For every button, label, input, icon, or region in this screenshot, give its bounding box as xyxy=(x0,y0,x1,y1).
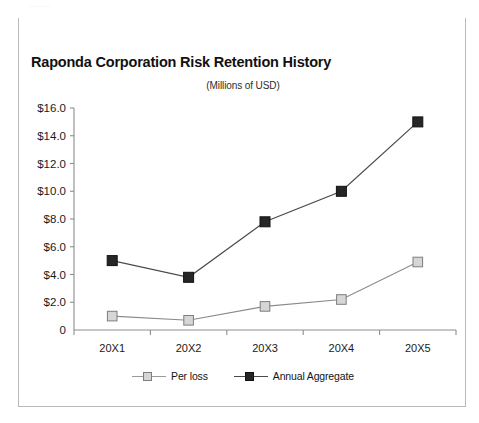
plot-area: 0$2.0$4.0$6.0$8.0$10.0$12.0$14.0$16.020X… xyxy=(19,18,467,407)
data-point-marker xyxy=(184,272,194,282)
open-square-marker-icon xyxy=(132,370,166,382)
y-axis-tick-label: $14.0 xyxy=(37,130,66,142)
legend-label-annual-aggregate: Annual Aggregate xyxy=(273,370,354,382)
data-point-marker xyxy=(337,295,347,305)
chart-legend: Per loss Annual Aggregate xyxy=(19,370,467,382)
filled-square-marker-icon xyxy=(234,370,268,382)
y-axis-tick-label: $12.0 xyxy=(37,158,66,170)
x-axis-tick-label: 20X4 xyxy=(329,342,355,354)
y-axis-tick-label: $2.0 xyxy=(44,296,66,308)
x-axis-tick-label: 20X1 xyxy=(99,342,125,354)
data-point-marker xyxy=(336,186,346,196)
line-chart-svg: 0$2.0$4.0$6.0$8.0$10.0$12.0$14.0$16.020X… xyxy=(19,18,467,407)
y-axis-tick-label: 0 xyxy=(60,324,66,336)
data-point-marker xyxy=(260,217,270,227)
x-axis-tick-label: 20X2 xyxy=(176,342,202,354)
legend-label-per-loss: Per loss xyxy=(171,370,208,382)
data-point-marker xyxy=(413,117,423,127)
y-axis-tick-label: $8.0 xyxy=(44,213,66,225)
legend-item-annual-aggregate: Annual Aggregate xyxy=(234,370,354,382)
x-axis-tick-label: 20X3 xyxy=(252,342,278,354)
data-point-marker xyxy=(107,256,117,266)
data-point-marker xyxy=(260,302,270,312)
legend-item-per-loss: Per loss xyxy=(132,370,208,382)
scan-top-artifact: ........ xyxy=(28,0,358,9)
y-axis-tick-label: $10.0 xyxy=(37,185,66,197)
series-line-annual-aggregate xyxy=(112,122,418,277)
data-point-marker xyxy=(413,257,423,267)
x-axis-tick-label: 20X5 xyxy=(405,342,431,354)
y-axis-tick-label: $6.0 xyxy=(44,241,66,253)
y-axis-tick-label: $4.0 xyxy=(44,269,66,281)
y-axis-tick-label: $16.0 xyxy=(37,102,66,114)
data-point-marker xyxy=(107,311,117,321)
data-point-marker xyxy=(184,316,194,326)
chart-card: Raponda Corporation Risk Retention Histo… xyxy=(18,18,466,407)
